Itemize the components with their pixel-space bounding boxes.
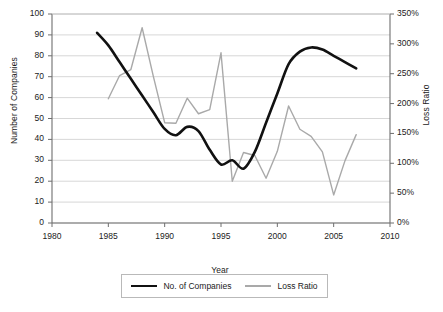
y-tick-label-right: 150% xyxy=(397,127,437,137)
y-tick-label-left: 70 xyxy=(10,71,44,81)
y-tick-label-left: 80 xyxy=(10,50,44,60)
legend-line-swatch-loss-ratio xyxy=(245,285,271,286)
y-tick-label-left: 50 xyxy=(10,113,44,123)
x-tick-label: 2005 xyxy=(314,231,354,241)
legend-label-companies: No. of Companies xyxy=(163,281,231,291)
legend-line-swatch-companies xyxy=(131,285,157,288)
chart-figure: Number of Companies Loss Ratio Year 0102… xyxy=(0,0,443,312)
y-tick-label-right: 250% xyxy=(397,68,437,78)
y-tick-label-left: 20 xyxy=(10,175,44,185)
y-tick-label-right: 50% xyxy=(397,187,437,197)
y-tick-label-right: 350% xyxy=(397,8,437,18)
y-tick-label-right: 0% xyxy=(397,217,437,227)
y-tick-label-left: 100 xyxy=(10,8,44,18)
x-tick-label: 1985 xyxy=(88,231,128,241)
legend-item-companies: No. of Companies xyxy=(131,281,231,291)
y-tick-label-left: 0 xyxy=(10,217,44,227)
legend-item-loss-ratio: Loss Ratio xyxy=(245,281,317,291)
y-tick-label-right: 100% xyxy=(397,157,437,167)
chart-legend: No. of Companies Loss Ratio xyxy=(121,274,328,298)
y-tick-label-right: 300% xyxy=(397,38,437,48)
x-tick-label: 1980 xyxy=(32,231,72,241)
legend-label-loss-ratio: Loss Ratio xyxy=(277,281,317,291)
y-tick-label-right: 200% xyxy=(397,98,437,108)
y-tick-label-left: 90 xyxy=(10,29,44,39)
x-tick-label: 1995 xyxy=(201,231,241,241)
x-tick-label: 2000 xyxy=(257,231,297,241)
y-tick-label-left: 40 xyxy=(10,133,44,143)
x-tick-label: 1990 xyxy=(145,231,185,241)
y-tick-label-left: 60 xyxy=(10,92,44,102)
y-tick-label-left: 10 xyxy=(10,196,44,206)
y-tick-label-left: 30 xyxy=(10,154,44,164)
x-tick-label: 2010 xyxy=(370,231,410,241)
series-line-loss-ratio xyxy=(108,28,356,195)
